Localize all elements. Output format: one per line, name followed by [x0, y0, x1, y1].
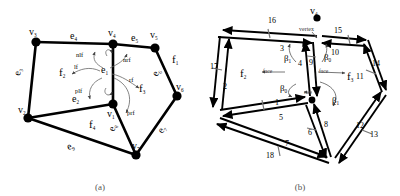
edge-e4: [36, 42, 113, 44]
label-e8: e8: [106, 122, 120, 133]
dart-5: [223, 103, 308, 116]
dart-4: [305, 42, 310, 96]
edge-e3: [28, 42, 36, 118]
mesh-edges: [28, 42, 177, 155]
label-v7: v7: [132, 140, 140, 152]
label-apex-v4: v4: [310, 5, 318, 17]
dart-label-18: 18: [266, 151, 274, 160]
label-f2: f2: [59, 66, 66, 79]
label-face-left: face: [263, 68, 273, 74]
label-lf: lf: [74, 63, 79, 70]
label-f2b: f2: [240, 67, 247, 80]
label-e9: e9: [66, 139, 76, 153]
arrow-nlf-loop: [106, 50, 112, 56]
dart-label-14: 14: [372, 59, 380, 68]
label-rf: rf: [129, 76, 134, 83]
label-face-center: face: [304, 90, 313, 95]
dart-label-3: 3: [280, 44, 284, 53]
label-v5: v5: [150, 29, 158, 41]
label-v6: v6: [176, 81, 184, 93]
label-e5: e5: [131, 32, 138, 44]
arrow-beta0-bottom: [289, 84, 296, 97]
vertex-v5: [150, 43, 159, 52]
edge-e5: [113, 44, 155, 48]
dart-label-9: 9: [309, 58, 313, 67]
label-face-right: face: [319, 68, 329, 74]
label-f3: f3: [139, 82, 146, 95]
dart-9: [313, 42, 317, 96]
panel-b: v4 vertex f2 f3 face face face β1 β0 β0 …: [200, 0, 400, 196]
dart-label-8: 8: [324, 120, 328, 129]
vertex-v3: [31, 37, 40, 46]
dart-label-11: 11: [356, 72, 364, 81]
label-e2: e2: [72, 93, 79, 105]
label-nrf: nrf: [123, 56, 131, 63]
dart-label-2: 2: [223, 82, 227, 91]
label-v2: v2: [18, 104, 26, 116]
caption-a: (a): [0, 182, 200, 192]
center-vertex-dot: [309, 97, 316, 104]
label-f3b: f3: [347, 70, 354, 83]
label-e6: e6: [149, 66, 163, 78]
label-vertex: vertex: [299, 26, 314, 32]
label-prf: prf: [127, 109, 135, 116]
panel-a: v1 v2 v3 v4 v5 v6 v7 e1 e2 e3 e4 e5 e6 e…: [0, 0, 200, 196]
label-e3: e3: [11, 67, 24, 76]
dart-arrows: [213, 30, 386, 163]
dart-label-17: 17: [210, 62, 218, 71]
dart-label-4: 4: [298, 59, 302, 68]
label-e4: e4: [70, 30, 77, 42]
label-f1: f1: [172, 53, 179, 66]
dart-label-15: 15: [334, 26, 342, 35]
dart-10: [322, 43, 366, 46]
vertex-v4: [108, 39, 117, 48]
label-e7: e7: [155, 123, 169, 136]
dart-label-16: 16: [268, 16, 276, 25]
dart-label-1: 1: [275, 98, 279, 107]
dart-3: [218, 37, 312, 43]
label-plf: plf: [75, 87, 83, 94]
dart-15: [322, 36, 366, 40]
dart-label-7: 7: [285, 139, 289, 148]
label-f4: f4: [89, 118, 96, 131]
arrow-rf: [112, 74, 139, 88]
label-nlf: nlf: [76, 51, 84, 58]
edge-e2: [28, 104, 113, 118]
figure-container: v1 v2 v3 v4 v5 v6 v7 e1 e2 e3 e4 e5 e6 e…: [0, 0, 400, 196]
dart-ticks: [212, 29, 376, 156]
label-v4: v4: [108, 27, 116, 39]
dart-2: [222, 39, 229, 110]
dart-label-5: 5: [279, 113, 283, 122]
dart-label-13: 13: [370, 130, 378, 139]
panel-a-diagram: v1 v2 v3 v4 v5 v6 v7 e1 e2 e3 e4 e5 e6 e…: [0, 0, 200, 196]
panel-b-diagram: v4 vertex f2 f3 face face face β1 β0 β0 …: [200, 0, 400, 196]
edge-e9: [28, 118, 136, 155]
label-v3: v3: [29, 26, 37, 38]
label-beta0-bottom: β0: [280, 83, 288, 94]
label-v1: v1: [107, 108, 115, 120]
caption-b: (b): [200, 182, 400, 192]
arrow-plf-loop: [105, 88, 112, 95]
dart-17: [213, 36, 220, 107]
arrow-plf: [90, 78, 103, 99]
label-e1: e1: [101, 64, 108, 76]
dart-label-10: 10: [331, 48, 339, 57]
label-beta1-bottom: β1: [332, 95, 340, 106]
dart-label-6: 6: [308, 128, 312, 137]
dart-label-12: 12: [356, 121, 364, 130]
arrow-prf: [114, 78, 130, 113]
